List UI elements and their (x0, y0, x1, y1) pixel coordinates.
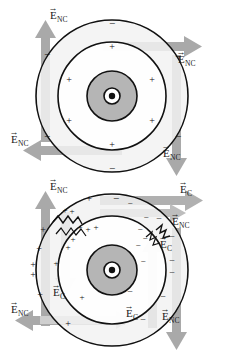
label-subscript: NC (18, 139, 28, 148)
charge-plus: + (79, 292, 84, 302)
charge-plus: + (69, 206, 74, 216)
charge-plus: + (70, 234, 75, 244)
charge-plus: + (66, 74, 72, 85)
charge-plus: + (109, 139, 115, 150)
vector-arrow-icon: → (159, 232, 168, 242)
charge-plus: + (65, 318, 71, 329)
label-subscript: NC (169, 316, 179, 325)
charge-minus: − (169, 231, 175, 242)
charge-minus: − (169, 267, 175, 278)
charge-plus: + (86, 193, 92, 204)
charge-plus: + (66, 115, 72, 126)
charge-minus: − (135, 240, 140, 250)
label-subscript: NC (57, 15, 67, 24)
charge-plus: + (149, 115, 155, 126)
charge-plus: + (93, 222, 98, 232)
vector-arrow-icon: → (179, 177, 188, 187)
charge-plus: + (149, 74, 155, 85)
charge-plus: + (30, 269, 36, 280)
panel-bottom-rings (36, 194, 188, 346)
charge-minus: − (109, 162, 115, 174)
charge-plus: + (62, 205, 67, 215)
vector-arrow-icon: → (125, 301, 134, 311)
vector-arrow-icon: → (161, 304, 170, 314)
charge-plus: + (109, 41, 115, 52)
label-subscript: NC (18, 309, 28, 318)
charge-plus: + (36, 243, 42, 254)
label-subscript: C (133, 313, 138, 322)
label-subscript: NC (179, 221, 189, 230)
charge-minus: − (44, 130, 50, 142)
magnetic-field-dot-icon (109, 93, 115, 99)
charge-minus: − (127, 198, 132, 208)
charge-plus: + (65, 242, 70, 252)
vector-arrow-icon: → (49, 174, 58, 184)
physics-figure: − − − − − − + + + + + + E → NC E → NC (0, 0, 227, 351)
charge-minus: − (143, 212, 148, 222)
charge-plus: + (85, 224, 90, 234)
vector-arrow-icon: → (52, 280, 61, 290)
charge-minus: − (44, 48, 50, 60)
label-subscript: NC (185, 59, 195, 68)
vector-arrow-icon: → (162, 141, 171, 151)
charge-minus: − (109, 17, 115, 29)
charge-minus: − (140, 256, 145, 266)
label-subscript: C (167, 244, 172, 253)
charge-minus: − (175, 130, 181, 142)
charge-minus: − (113, 192, 119, 204)
label-subscript: C (187, 189, 192, 198)
charge-minus: − (140, 314, 146, 325)
vector-arrow-icon: → (177, 47, 186, 57)
figure-canvas: − − − − − − + + + + + + E → NC E → NC (0, 0, 227, 351)
label-subscript: C (60, 292, 65, 301)
vector-arrow-icon: → (10, 127, 19, 137)
label-subscript: NC (170, 153, 180, 162)
label-subscript: NC (57, 186, 67, 195)
vector-arrow-icon: → (49, 3, 58, 13)
charge-minus: − (156, 213, 162, 224)
charge-minus: − (142, 233, 147, 243)
charge-plus: + (53, 258, 58, 268)
charge-minus: − (127, 286, 133, 297)
charge-plus: + (40, 224, 46, 235)
charge-plus: + (37, 289, 43, 300)
vector-arrow-icon: → (171, 209, 180, 219)
charge-minus: − (169, 255, 175, 266)
charge-plus: + (77, 222, 82, 232)
charge-minus: − (160, 291, 166, 302)
magnetic-field-dot-icon (109, 267, 115, 273)
vector-arrow-icon: → (10, 297, 19, 307)
